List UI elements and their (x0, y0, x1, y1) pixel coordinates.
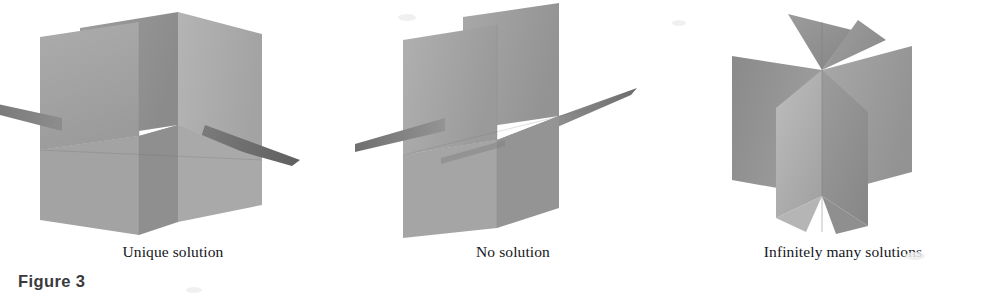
scan-speck (672, 20, 686, 26)
plane-front-upper (40, 22, 139, 150)
scan-speck (398, 14, 416, 21)
scan-speck (186, 287, 202, 293)
figure-illustrations (0, 0, 991, 240)
scan-speck (905, 252, 925, 260)
caption-row: Unique solution No solution Infinitely m… (0, 243, 991, 269)
caption-infinitely-many-solutions: Infinitely many solutions (678, 243, 991, 261)
diagram-no-solution (345, 0, 675, 240)
caption-no-solution: No solution (348, 243, 678, 261)
plane-back-lower (139, 125, 178, 235)
figure-number-label: Figure 3 (18, 272, 85, 291)
diagram-unique-solution (0, 0, 330, 240)
figure-board: Unique solution No solution Infinitely m… (0, 0, 991, 304)
diagram-infinitely-many-solutions (690, 0, 991, 240)
plane-horizontal-right-wing (555, 88, 637, 128)
caption-unique-solution: Unique solution (8, 243, 338, 261)
plane-back-parallel-lower (497, 116, 559, 228)
plane-front-parallel-lower (403, 140, 497, 238)
